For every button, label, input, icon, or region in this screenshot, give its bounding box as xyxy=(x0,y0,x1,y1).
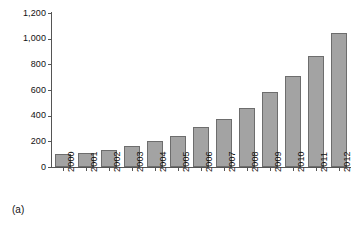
x-tick-mark xyxy=(224,168,225,171)
x-tick-mark xyxy=(316,168,317,171)
x-tick-mark xyxy=(270,168,271,171)
x-tick-mark xyxy=(132,168,133,171)
x-tick-label: 2004 xyxy=(159,136,168,172)
x-tick-mark xyxy=(63,168,64,171)
y-tick-mark xyxy=(48,167,51,168)
x-tick-mark xyxy=(201,168,202,171)
y-tick-mark xyxy=(48,116,51,117)
x-tick-label: 2002 xyxy=(113,136,122,172)
x-tick-label: 2012 xyxy=(343,136,352,172)
figure-panel-a: 02004006008001,0001,200 2000200120022003… xyxy=(0,0,358,226)
x-tick-label: 2007 xyxy=(228,136,237,172)
x-tick-label: 2010 xyxy=(297,136,306,172)
y-tick-mark xyxy=(48,39,51,40)
y-tick-label: 800 xyxy=(2,60,46,69)
x-tick-mark xyxy=(339,168,340,171)
y-tick-mark xyxy=(48,141,51,142)
x-tick-label: 2009 xyxy=(274,136,283,172)
x-tick-label: 2000 xyxy=(67,136,76,172)
y-tick-label: 0 xyxy=(2,163,46,172)
y-tick-label: 1,200 xyxy=(2,9,46,18)
figure-caption: (a) xyxy=(12,205,24,215)
x-tick-mark xyxy=(247,168,248,171)
x-tick-mark xyxy=(86,168,87,171)
y-tick-mark xyxy=(48,13,51,14)
y-tick-label: 400 xyxy=(2,111,46,120)
x-tick-mark xyxy=(178,168,179,171)
x-tick-mark xyxy=(109,168,110,171)
y-tick-label: 600 xyxy=(2,86,46,95)
y-tick-mark xyxy=(48,90,51,91)
x-tick-label: 2006 xyxy=(205,136,214,172)
x-tick-label: 2005 xyxy=(182,136,191,172)
x-tick-label: 2003 xyxy=(136,136,145,172)
x-tick-label: 2011 xyxy=(320,136,329,172)
x-tick-mark xyxy=(293,168,294,171)
x-tick-label: 2001 xyxy=(90,136,99,172)
y-tick-label: 1,000 xyxy=(2,34,46,43)
y-tick-mark xyxy=(48,64,51,65)
x-tick-label: 2008 xyxy=(251,136,260,172)
y-tick-label: 200 xyxy=(2,137,46,146)
x-tick-mark xyxy=(155,168,156,171)
